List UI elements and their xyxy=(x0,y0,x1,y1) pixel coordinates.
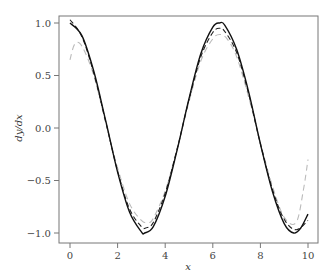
y-tick-label: 0.5 xyxy=(35,70,51,81)
y-axis: 1.00.50.0−0.5−1.0 xyxy=(27,18,59,239)
x-tick-label: 4 xyxy=(162,250,168,261)
x-tick-label: 2 xyxy=(114,250,120,261)
y-tick-label: −0.5 xyxy=(27,175,51,186)
x-axis-label: x xyxy=(185,261,191,272)
y-tick-label: −1.0 xyxy=(27,228,51,239)
y-axis-label: dy/dx xyxy=(13,114,24,142)
series-line-estimate-1 xyxy=(70,20,308,230)
y-tick-label: 0.0 xyxy=(35,123,51,134)
plot-frame xyxy=(59,16,318,243)
series-line-estimate-2 xyxy=(70,34,308,224)
y-tick-label: 1.0 xyxy=(35,18,51,29)
series-layer xyxy=(70,20,308,234)
x-tick-label: 10 xyxy=(302,250,315,261)
x-tick-label: 8 xyxy=(257,250,263,261)
x-tick-label: 0 xyxy=(67,250,73,261)
derivative-chart: 0246810 1.00.50.0−0.5−1.0 x dy/dx xyxy=(0,0,330,280)
x-axis: 0246810 xyxy=(67,243,315,261)
x-tick-label: 6 xyxy=(210,250,216,261)
series-line-true-derivative xyxy=(70,22,308,234)
